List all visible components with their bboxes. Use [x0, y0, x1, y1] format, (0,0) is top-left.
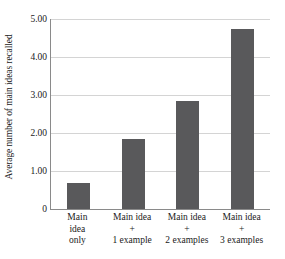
x-label-line: only: [50, 235, 105, 247]
y-axis-tick-labels: 5.00 4.00 3.00 2.00 1.00 0: [16, 0, 49, 214]
bar-slot-2: [161, 19, 216, 209]
x-label-line: 1 example: [105, 235, 160, 247]
y-axis-title-text: Average number of main ideas recalled: [4, 34, 14, 179]
bar-main-idea-2-examples[interactable]: [176, 101, 199, 209]
y-tick-label-5: 5.00: [30, 14, 47, 24]
x-label-0: Mainideaonly: [50, 212, 105, 257]
x-label-line: Main idea: [160, 212, 215, 224]
x-label-line: +: [105, 224, 160, 236]
bar-main-idea-only[interactable]: [67, 183, 90, 209]
bar-main-idea-1-example[interactable]: [122, 139, 145, 209]
x-label-line: idea: [50, 224, 105, 236]
x-label-line: Main idea: [105, 212, 160, 224]
bar-chart-figure: Average number of main ideas recalled 5.…: [0, 0, 285, 259]
x-label-line: 2 examples: [160, 235, 215, 247]
x-label-line: 3 examples: [214, 235, 269, 247]
x-label-3: Main idea+3 examples: [214, 212, 269, 257]
x-label-line: Main idea: [214, 212, 269, 224]
y-tick-label-3: 3.00: [30, 90, 47, 100]
bar-slot-3: [215, 19, 270, 209]
y-tick-label-0: 0: [42, 204, 47, 214]
x-axis-category-labels: Mainideaonly Main idea+1 example Main id…: [50, 212, 269, 257]
y-tick-label-1: 1.00: [30, 166, 47, 176]
bar-slot-1: [106, 19, 161, 209]
x-label-1: Main idea+1 example: [105, 212, 160, 257]
x-label-line: Main: [50, 212, 105, 224]
bar-slot-0: [51, 19, 106, 209]
x-label-2: Main idea+2 examples: [160, 212, 215, 257]
y-tick-label-4: 4.00: [30, 52, 47, 62]
bar-main-idea-3-examples[interactable]: [231, 29, 254, 209]
bar-series: [51, 19, 270, 209]
x-label-line: +: [214, 224, 269, 236]
y-tick-label-2: 2.00: [30, 128, 47, 138]
plot-area: [50, 19, 270, 210]
x-label-line: +: [160, 224, 215, 236]
